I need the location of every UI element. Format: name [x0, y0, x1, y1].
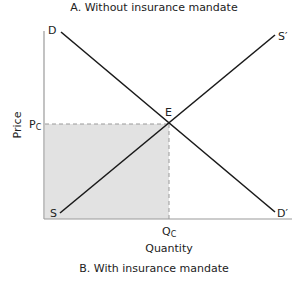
demand-end-label: D′ — [277, 207, 288, 220]
quantity-tick-label: QC — [162, 225, 177, 239]
supply-demand-diagram: D S′ E S D′ PC QC Quantity Price — [0, 0, 308, 282]
x-axis-label: Quantity — [145, 242, 193, 255]
supply-start-label: S — [50, 207, 57, 220]
supply-end-label: S′ — [278, 30, 288, 43]
demand-start-label: D — [48, 24, 56, 37]
panel-b-title: B. With insurance mandate — [0, 262, 308, 275]
price-tick-label: PC — [29, 118, 42, 132]
equilibrium-label: E — [165, 106, 172, 119]
y-axis-label: Price — [11, 111, 24, 138]
